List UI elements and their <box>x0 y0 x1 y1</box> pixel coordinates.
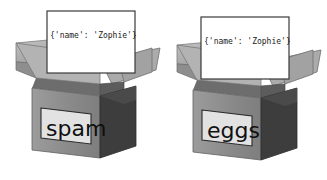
box-spam: {'name': 'Zophie'} spam <box>0 0 165 180</box>
face-label-text: eggs <box>207 118 260 143</box>
dict-card: {'name': 'Zophie'} <box>47 11 137 73</box>
face-label-plate: eggs <box>202 110 260 146</box>
dict-card: {'name': 'Zophie'} <box>201 17 291 79</box>
dict-card-paper <box>201 17 289 79</box>
boxes-figure: {'name': 'Zophie'} spam <box>0 0 327 180</box>
face-label-text: spam <box>46 116 106 141</box>
dict-card-paper <box>47 11 135 73</box>
dict-card-text: {'name': 'Zophie'} <box>204 37 291 46</box>
box-eggs: {'name': 'Zophie'} eggs <box>163 0 327 180</box>
dict-card-text: {'name': 'Zophie'} <box>50 31 137 40</box>
